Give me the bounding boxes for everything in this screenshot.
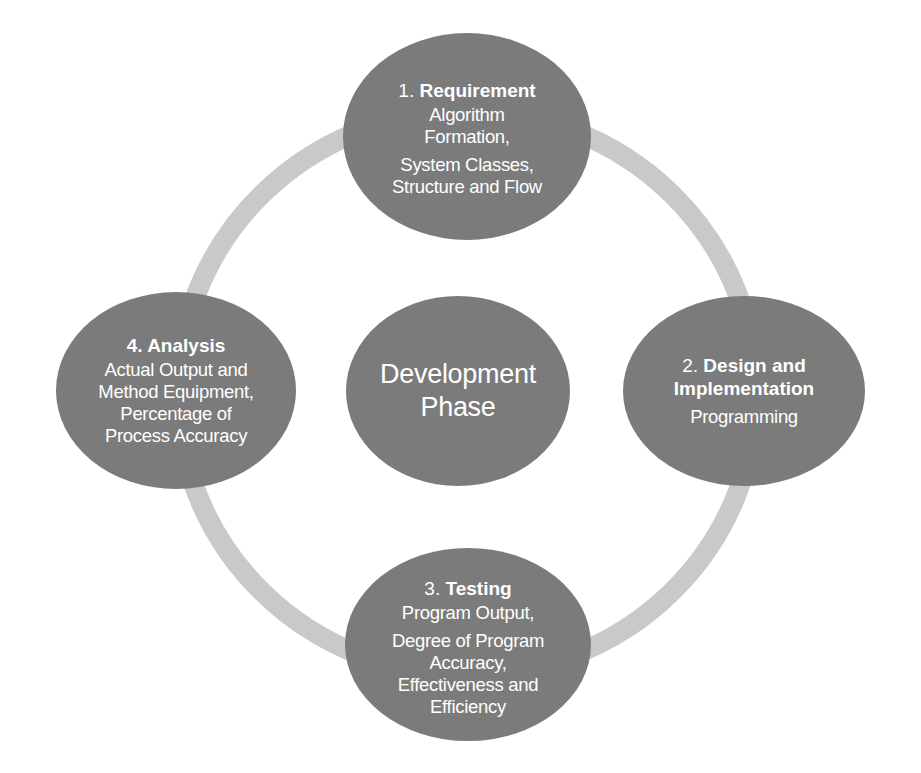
step-number: 4. — [127, 335, 143, 356]
node-text-line: Process Accuracy — [105, 425, 247, 447]
node-text-line: Efficiency — [430, 696, 506, 718]
center-development-phase: Development Phase — [346, 296, 570, 486]
node-requirement-title: 1. Requirement — [398, 79, 535, 102]
step-title: Testing — [445, 578, 511, 599]
node-text-line: Program Output, — [402, 602, 534, 624]
center-title-line: Development — [380, 358, 536, 391]
node-text-line: Actual Output and — [105, 359, 248, 381]
step-number: 3. — [424, 578, 440, 599]
step-number: 1. — [398, 80, 414, 101]
node-design-implementation: 2. Design and Implementation Programming — [623, 296, 865, 486]
center-title-line: Phase — [420, 391, 495, 424]
node-text-line: Formation, — [424, 126, 509, 148]
node-text-line: Programming — [690, 406, 798, 428]
step-title: Requirement — [420, 80, 536, 101]
node-testing: 3. Testing Program Output, Degree of Pro… — [345, 548, 591, 741]
node-analysis-title: 4. Analysis — [127, 334, 226, 357]
node-requirement: 1. Requirement Algorithm Formation, Syst… — [343, 33, 591, 240]
node-text-line: Percentage of — [120, 403, 231, 425]
step-title: Design and — [703, 355, 805, 376]
node-text-line: System Classes, — [400, 154, 533, 176]
node-text-line: Method Equipment, — [98, 381, 253, 403]
node-design-title: 2. Design and — [682, 354, 806, 377]
node-text-line: Effectiveness and — [398, 674, 539, 696]
step-title: Implementation — [674, 378, 814, 399]
step-title: Analysis — [147, 335, 225, 356]
node-testing-title: 3. Testing — [424, 577, 511, 600]
node-text-line: Degree of Program — [392, 630, 544, 652]
node-text-line: Algorithm — [429, 104, 504, 126]
step-number: 2. — [682, 355, 698, 376]
node-text-line: Accuracy, — [429, 652, 506, 674]
node-design-title-line2: Implementation — [674, 377, 814, 400]
node-analysis: 4. Analysis Actual Output and Method Equ… — [56, 292, 296, 489]
node-text-line: Structure and Flow — [392, 176, 542, 198]
